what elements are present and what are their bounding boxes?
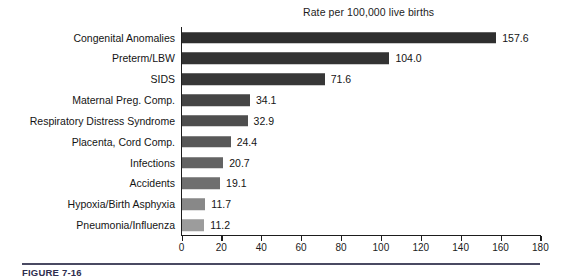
bar-row: Infections20.7 xyxy=(0,152,561,173)
category-label: Placenta, Cord Comp. xyxy=(72,136,175,148)
category-label: SIDS xyxy=(150,73,175,85)
x-axis-tick xyxy=(301,236,302,241)
bar xyxy=(182,94,250,106)
bar-row: Placenta, Cord Comp.24.4 xyxy=(0,131,561,152)
x-axis-tick-label: 60 xyxy=(296,242,307,253)
x-axis-tick xyxy=(540,236,541,241)
bar-value-label: 34.1 xyxy=(256,94,276,106)
bar xyxy=(182,199,205,211)
bar-row: Hypoxia/Birth Asphyxia11.7 xyxy=(0,194,561,215)
figure-caption: FIGURE 7-16 xyxy=(22,267,82,278)
category-label: Hypoxia/Birth Asphyxia xyxy=(68,198,175,210)
x-axis-tick xyxy=(501,236,502,241)
bar-value-label: 11.2 xyxy=(210,219,230,231)
bar xyxy=(182,53,389,65)
x-axis-tick-label: 180 xyxy=(532,242,549,253)
bar-value-label: 104.0 xyxy=(395,52,421,64)
x-axis-tick-label: 20 xyxy=(216,242,227,253)
category-label: Respiratory Distress Syndrome xyxy=(30,115,175,127)
x-axis-tick xyxy=(341,236,342,241)
x-axis-tick xyxy=(461,236,462,241)
x-axis-tick-label: 80 xyxy=(335,242,346,253)
bar xyxy=(182,178,220,190)
x-axis-tick xyxy=(182,236,183,241)
bar-row: Accidents19.1 xyxy=(0,173,561,194)
x-axis-tick-label: 40 xyxy=(256,242,267,253)
category-label: Pneumonia/Influenza xyxy=(76,219,175,231)
x-axis-tick-label: 140 xyxy=(452,242,469,253)
bar-value-label: 157.6 xyxy=(502,32,528,44)
chart-title: Rate per 100,000 live births xyxy=(303,6,434,18)
x-axis-tick xyxy=(421,236,422,241)
bar xyxy=(182,136,231,148)
bar-row: Pneumonia/Influenza11.2 xyxy=(0,215,561,236)
x-axis-tick-label: 100 xyxy=(373,242,390,253)
bar xyxy=(182,32,496,44)
x-axis-tick xyxy=(261,236,262,241)
x-axis-tick xyxy=(381,236,382,241)
bar-row: Congenital Anomalies157.6 xyxy=(0,27,561,48)
bar-value-label: 24.4 xyxy=(237,136,257,148)
bar xyxy=(182,157,223,169)
x-axis-tick-label: 160 xyxy=(492,242,509,253)
bar xyxy=(182,115,248,127)
bar-value-label: 19.1 xyxy=(226,177,246,189)
bar-row: Maternal Preg. Comp.34.1 xyxy=(0,90,561,111)
x-axis-tick xyxy=(221,236,222,241)
caption-divider xyxy=(22,263,540,265)
x-axis-tick-label: 120 xyxy=(412,242,429,253)
bar xyxy=(182,73,325,85)
bar-value-label: 71.6 xyxy=(331,73,351,85)
category-label: Congenital Anomalies xyxy=(73,32,175,44)
category-label: Maternal Preg. Comp. xyxy=(72,94,175,106)
bar-value-label: 11.7 xyxy=(211,198,231,210)
bar xyxy=(182,219,204,231)
bar-row: Preterm/LBW104.0 xyxy=(0,48,561,69)
category-label: Preterm/LBW xyxy=(112,52,175,64)
category-label: Infections xyxy=(130,157,175,169)
bar-row: SIDS71.6 xyxy=(0,69,561,90)
bar-value-label: 32.9 xyxy=(254,115,274,127)
bar-row: Respiratory Distress Syndrome32.9 xyxy=(0,110,561,131)
x-axis-tick-label: 0 xyxy=(179,242,185,253)
bar-value-label: 20.7 xyxy=(229,157,249,169)
category-label: Accidents xyxy=(129,177,175,189)
